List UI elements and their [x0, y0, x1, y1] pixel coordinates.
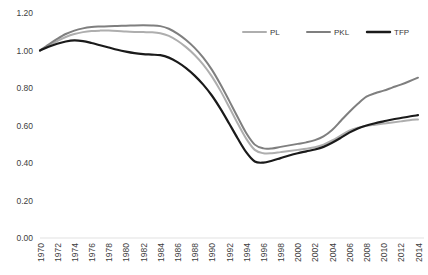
y-axis-tick-label: 0.40 — [16, 158, 33, 168]
y-axis-tick-label: 0.20 — [16, 196, 33, 206]
y-axis-tick-label: 1.00 — [16, 46, 33, 56]
x-axis-tick-label: 1980 — [121, 243, 131, 262]
x-axis-tick-label: 1994 — [242, 243, 252, 262]
x-axis-tick-label: 1978 — [104, 243, 114, 262]
legend-label-pkl: PKL — [334, 28, 350, 37]
legend-label-tfp: TFP — [394, 28, 409, 37]
x-axis-tick-label: 2014 — [414, 243, 424, 262]
y-axis-tick-labels: 0.000.200.400.600.801.001.20 — [16, 8, 33, 243]
x-axis-tick-label: 2012 — [396, 243, 406, 262]
x-axis-tick-label: 2006 — [345, 243, 355, 262]
x-axis-tick-label: 1972 — [53, 243, 63, 262]
chart-legend: PLPKLTFP — [243, 28, 409, 37]
legend-label-pl: PL — [270, 28, 280, 37]
y-axis-tick-label: 0.60 — [16, 121, 33, 131]
x-axis-tick-label: 1970 — [36, 243, 46, 262]
x-axis-tick-label: 1996 — [259, 243, 269, 262]
x-axis-tick-label: 2010 — [379, 243, 389, 262]
x-axis-tick-labels: 1970197219741976197819801982198419861988… — [36, 243, 424, 262]
x-axis-tick-label: 1988 — [190, 243, 200, 262]
x-axis-tick-label: 1984 — [156, 243, 166, 262]
x-axis-tick-label: 1974 — [70, 243, 80, 262]
line-chart: 0.000.200.400.600.801.001.20 19701972197… — [0, 0, 428, 275]
x-axis-tick-label: 1976 — [87, 243, 97, 262]
data-series-group — [40, 25, 418, 163]
x-axis-tick-label: 1982 — [139, 243, 149, 262]
x-axis-tick-label: 1998 — [276, 243, 286, 262]
x-axis-tick-label: 2004 — [328, 243, 338, 262]
x-axis-tick-label: 1992 — [225, 243, 235, 262]
x-axis-tick-label: 2008 — [362, 243, 372, 262]
x-axis-tick-label: 2000 — [293, 243, 303, 262]
series-line-pl — [40, 31, 418, 154]
y-axis-tick-label: 0.80 — [16, 83, 33, 93]
y-axis-tick-label: 1.20 — [16, 8, 33, 18]
x-axis-tick-label: 1990 — [207, 243, 217, 262]
y-axis-tick-label: 0.00 — [16, 233, 33, 243]
chart-plot-area: 0.000.200.400.600.801.001.20 19701972197… — [0, 0, 428, 275]
x-axis-tick-label: 2002 — [310, 243, 320, 262]
x-axis-tick-label: 1986 — [173, 243, 183, 262]
